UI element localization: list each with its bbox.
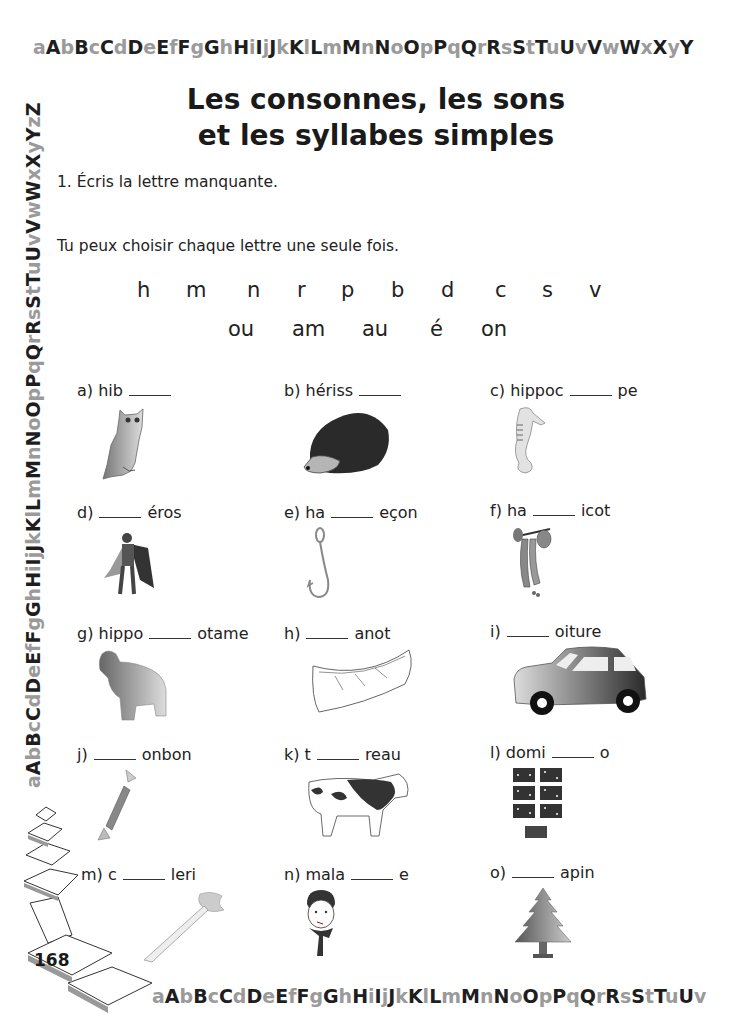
canoe-icon bbox=[305, 648, 417, 716]
alphabet-border-top: aAbBcCdDeEfFgGhHiIjJkKlLmMnNoOpPqQrRsStT… bbox=[33, 36, 694, 58]
letter-option: n bbox=[247, 278, 260, 302]
item-prefix: o) bbox=[490, 863, 506, 882]
hedgehog-icon bbox=[300, 405, 392, 477]
exercise-item-n: n) malae bbox=[284, 865, 484, 884]
item-prefix: a) hib bbox=[77, 381, 123, 400]
exercise-item-b: b) hériss bbox=[284, 381, 484, 400]
sound-option: ou bbox=[228, 317, 254, 341]
answer-blank[interactable] bbox=[570, 394, 612, 396]
hippopotamus-icon bbox=[96, 648, 176, 722]
answer-blank[interactable] bbox=[359, 394, 401, 396]
item-prefix: c) hippoc bbox=[490, 381, 564, 400]
owl-icon bbox=[95, 405, 155, 480]
item-prefix: i) bbox=[490, 622, 501, 641]
letter-option: d bbox=[441, 278, 454, 302]
answer-blank[interactable] bbox=[552, 756, 594, 758]
item-suffix: leri bbox=[171, 865, 196, 884]
item-prefix: l) domi bbox=[490, 743, 546, 762]
seahorse-icon bbox=[505, 405, 550, 477]
letter-option: c bbox=[495, 278, 507, 302]
exercise-item-o: o)apin bbox=[490, 863, 690, 882]
answer-blank[interactable] bbox=[94, 758, 136, 760]
item-prefix: f) ha bbox=[490, 501, 527, 520]
exercise-item-a: a) hib bbox=[77, 381, 277, 400]
exercise-item-c: c) hippocpe bbox=[490, 381, 690, 400]
title-line-1: Les consonnes, les sons bbox=[10, 82, 732, 118]
superhero-icon bbox=[100, 530, 158, 600]
item-prefix: h) bbox=[284, 624, 300, 643]
item-suffix: anot bbox=[354, 624, 390, 643]
item-suffix: o bbox=[600, 743, 610, 762]
exercise-item-h: h)anot bbox=[284, 624, 484, 643]
answer-blank[interactable] bbox=[331, 516, 373, 518]
page-number: 168 bbox=[34, 950, 70, 970]
letter-option: s bbox=[542, 278, 553, 302]
exercise-item-l: l) domio bbox=[490, 743, 690, 762]
answer-blank[interactable] bbox=[507, 635, 549, 637]
item-prefix: d) bbox=[77, 503, 93, 522]
exercise-item-j: j)onbon bbox=[77, 745, 277, 764]
letter-option: m bbox=[186, 278, 206, 302]
item-suffix: eçon bbox=[379, 503, 418, 522]
fishhook-icon bbox=[300, 525, 340, 603]
exercise-item-e: e) haeçon bbox=[284, 503, 484, 522]
item-suffix: pe bbox=[618, 381, 638, 400]
sick-boy-icon bbox=[303, 890, 339, 962]
answer-blank[interactable] bbox=[129, 394, 171, 396]
item-prefix: g) hippo bbox=[77, 624, 143, 643]
item-suffix: onbon bbox=[142, 745, 192, 764]
exercise-item-g: g) hippootame bbox=[77, 624, 277, 643]
answer-blank[interactable] bbox=[306, 637, 348, 639]
green-beans-icon bbox=[510, 525, 560, 600]
answer-blank[interactable] bbox=[512, 876, 554, 878]
item-prefix: e) ha bbox=[284, 503, 325, 522]
letter-option: r bbox=[297, 278, 306, 302]
item-suffix: e bbox=[399, 865, 409, 884]
item-prefix: n) mala bbox=[284, 865, 345, 884]
answer-blank[interactable] bbox=[533, 514, 575, 516]
answer-blank[interactable] bbox=[99, 516, 141, 518]
sound-option: au bbox=[362, 317, 388, 341]
title-line-2: et les syllabes simples bbox=[10, 118, 732, 154]
book-stack-icon bbox=[8, 805, 153, 1017]
exercise-hint: Tu peux choisir chaque lettre une seule … bbox=[57, 237, 399, 255]
item-suffix: otame bbox=[197, 624, 248, 643]
exercise-instruction: 1. Écris la lettre manquante. bbox=[57, 173, 278, 191]
alphabet-border-left: aAbBcCdDeEfFgGhHiIjJkKlLmMnNoOpPqQrRsStT… bbox=[22, 103, 44, 788]
exercise-item-d: d)éros bbox=[77, 503, 277, 522]
exercise-item-k: k) treau bbox=[284, 745, 484, 764]
car-icon bbox=[512, 645, 650, 720]
sound-bank: ou am au é on bbox=[0, 317, 732, 347]
exercise-item-i: i)oiture bbox=[490, 622, 690, 641]
fir-tree-icon bbox=[513, 888, 573, 962]
dominoes-icon bbox=[512, 767, 568, 842]
letter-option: b bbox=[391, 278, 404, 302]
answer-blank[interactable] bbox=[317, 758, 359, 760]
alphabet-border-bottom: aAbBcCdDeEfFgGhHiIjJkKlLmMnNoOpPqQrRsStT… bbox=[152, 985, 706, 1007]
page-title: Les consonnes, les sons et les syllabes … bbox=[10, 82, 732, 154]
answer-blank[interactable] bbox=[351, 878, 393, 880]
exercise-item-f: f) haicot bbox=[490, 501, 690, 520]
sound-option: é bbox=[430, 317, 443, 341]
letter-option: p bbox=[341, 278, 354, 302]
letter-option: h bbox=[137, 278, 150, 302]
item-suffix: icot bbox=[581, 501, 610, 520]
letter-option: v bbox=[589, 278, 601, 302]
item-suffix: apin bbox=[560, 863, 595, 882]
item-prefix: j) bbox=[77, 745, 88, 764]
item-suffix: éros bbox=[147, 503, 181, 522]
item-suffix: oiture bbox=[555, 622, 602, 641]
item-prefix: b) hériss bbox=[284, 381, 353, 400]
letter-bank: h m n r p b d c s v bbox=[0, 278, 732, 308]
sound-option: am bbox=[292, 317, 325, 341]
item-prefix: k) t bbox=[284, 745, 311, 764]
sound-option: on bbox=[481, 317, 507, 341]
answer-blank[interactable] bbox=[149, 637, 191, 639]
bull-icon bbox=[303, 770, 415, 842]
item-suffix: reau bbox=[365, 745, 401, 764]
